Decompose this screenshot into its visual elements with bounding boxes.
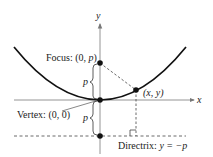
parabola-diagram: y x Focus: (0, p) p p Vertex: (0, 0) (x,… [0,0,213,157]
y-axis-label: y [95,10,101,21]
upper-p-label: p [82,76,88,87]
vertex-label: Vertex: (0, 0) [17,109,70,121]
directrix-point [97,133,103,139]
curve-point [133,87,139,93]
point-label: (x, y) [143,87,164,99]
right-angle-marker [130,130,136,136]
upper-p-brace [90,64,97,99]
directrix-label: Directrix: y = −p [118,140,187,151]
lower-p-brace [90,101,97,135]
focus-point [97,60,103,66]
focus-to-point-line [100,63,136,90]
vertex-point [97,97,103,103]
lower-p-label: p [82,112,88,123]
x-axis-label: x [196,94,202,105]
focus-label: Focus: (0, p) [46,52,97,64]
